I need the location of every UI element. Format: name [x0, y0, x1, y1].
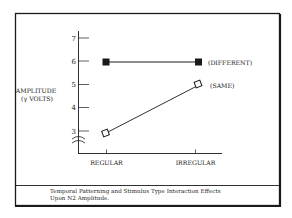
caption-line-1: Temporal Patterning and Stimulus Type In… [50, 188, 275, 195]
caption-line-2: Upon N2 Amplitude. [50, 195, 275, 202]
figure-caption: Temporal Patterning and Stimulus Type In… [50, 188, 275, 202]
series-same-marker-irregular [194, 80, 202, 88]
legend-same: (SAME) [210, 82, 234, 89]
series-different-marker-regular [103, 59, 110, 66]
y-ticks [79, 38, 90, 131]
y-tick-6: 6 [72, 58, 77, 66]
y-axis-label-line1: AMPLITUDE [15, 87, 57, 94]
y-axis-label-line2: (γ VOLTS) [21, 95, 53, 103]
x-label-regular: REGULAR [90, 159, 123, 166]
series-same-marker-regular [102, 129, 110, 137]
x-label-irregular: IRREGULAR [176, 159, 216, 166]
x-ticks [107, 150, 196, 154]
y-tick-7: 7 [72, 35, 76, 43]
series-same-line [107, 87, 196, 133]
y-tick-labels: 7 6 5 4 3 [72, 35, 77, 136]
y-tick-5: 5 [72, 81, 76, 89]
y-tick-3: 3 [72, 128, 76, 136]
series-different-marker-irregular [195, 59, 202, 66]
x-tick-labels: REGULAR IRREGULAR [90, 159, 215, 166]
chart-figure: 7 6 5 4 3 REGULAR IRREGULAR AMPLITUDE (γ… [0, 0, 292, 218]
figure-frame [16, 14, 280, 206]
legend-different: (DIFFERENT) [208, 59, 252, 66]
y-tick-4: 4 [72, 104, 77, 112]
